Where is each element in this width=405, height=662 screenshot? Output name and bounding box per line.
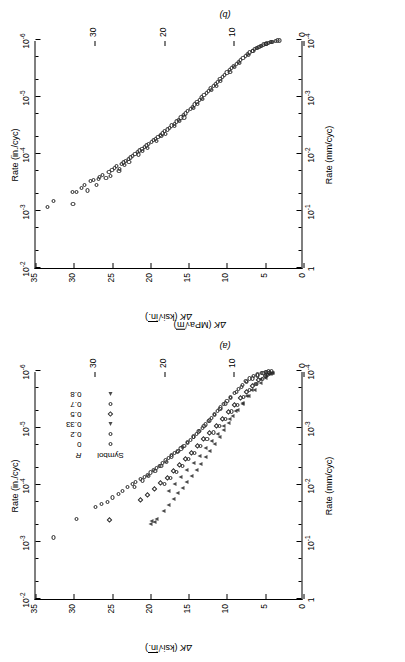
axis-tick-label: 30: [89, 28, 98, 40]
axis-tick: [298, 387, 301, 388]
data-point-circle: [177, 119, 181, 123]
axis-tick: [296, 598, 301, 599]
data-point-circle: [241, 395, 245, 399]
panel-a-x-top-title: Rate (in./cyc): [10, 459, 19, 512]
axis-tick: [298, 56, 301, 57]
axis-tick: [150, 594, 151, 599]
data-point-circle: [51, 199, 55, 203]
axis-tick: [35, 170, 38, 171]
data-point-triangle: [180, 486, 184, 490]
data-point-circle: [228, 396, 232, 400]
data-point-triangle: [246, 394, 250, 398]
data-point-triangle: [194, 468, 198, 472]
data-point-circle: [70, 202, 74, 206]
data-point-circle: [198, 444, 202, 448]
data-point-triangle: [215, 432, 219, 436]
data-point-triangle: [227, 417, 231, 421]
data-point-triangle: [221, 428, 225, 432]
axis-tick-label: 5: [259, 270, 268, 278]
data-point-triangle: [258, 381, 262, 385]
data-point-circle: [120, 489, 124, 493]
axis-tick-label: 10: [228, 28, 237, 40]
axis-tick-label: 1: [303, 598, 315, 603]
data-point-circle: [94, 183, 98, 187]
axis-tick: [35, 541, 40, 542]
panel-a-x-bottom-title: Rate (mm/cyc): [324, 457, 333, 516]
data-point-circle: [70, 190, 74, 194]
data-point-circle: [175, 450, 179, 454]
axis-tick-label: 30: [89, 359, 98, 371]
axis-tick-label: 10-2: [22, 592, 34, 607]
data-point-circle: [126, 160, 130, 164]
data-point-circle: [82, 183, 86, 187]
panel-a-letter: (a): [219, 341, 230, 351]
axis-tick-label: 10-2: [22, 261, 34, 276]
axis-tick: [298, 136, 301, 137]
axis-tick: [35, 193, 38, 194]
axis-tick: [35, 427, 40, 428]
data-point-circle: [51, 535, 55, 539]
data-point-triangle: [198, 462, 202, 466]
axis-tick: [188, 594, 189, 599]
legend-row: 0: [61, 439, 125, 449]
data-point-circle: [212, 413, 216, 417]
axis-tick-label: 10-2: [303, 147, 315, 162]
legend-row: 0.7: [61, 399, 125, 409]
axis-tick: [35, 467, 38, 468]
data-point-circle: [217, 424, 221, 428]
data-point-triangle: [161, 509, 165, 513]
legend-marker-diamond: [107, 411, 113, 417]
axis-tick: [35, 96, 40, 97]
data-point-circle: [140, 478, 144, 482]
axis-tick: [94, 41, 95, 46]
axis-tick: [298, 558, 301, 559]
data-point-diamond: [137, 497, 143, 503]
axis-tick-label: 20: [145, 601, 154, 613]
axis-tick-label: 1: [303, 267, 315, 272]
data-point-circle: [116, 492, 120, 496]
panel-b-plot-frame: [34, 41, 302, 269]
axis-tick: [226, 594, 227, 599]
data-point-circle: [152, 469, 156, 473]
legend-row: 0.2: [61, 429, 125, 439]
legend-marker-triangle: [108, 422, 112, 426]
data-point-circle: [181, 115, 185, 119]
panel-a-legend: Symbol R 00.20.330.50.70.8: [61, 389, 125, 459]
axis-tick-label: 20: [145, 270, 154, 282]
data-point-triangle: [166, 489, 170, 493]
data-point-circle: [91, 178, 95, 182]
data-point-circle: [237, 61, 241, 65]
data-point-circle: [132, 485, 136, 489]
data-point-circle: [244, 380, 248, 384]
data-point-circle: [277, 38, 281, 42]
data-point-circle: [145, 146, 149, 150]
axis-tick-label: 10: [221, 601, 230, 613]
data-point-triangle: [189, 474, 193, 478]
axis-tick-label: 5: [259, 601, 268, 609]
axis-tick-label: 10-3: [303, 421, 315, 436]
data-point-triangle: [175, 491, 179, 495]
axis-tick: [296, 541, 301, 542]
data-point-circle: [235, 403, 239, 407]
panel-b-letter: (b): [219, 10, 230, 20]
data-point-circle: [218, 79, 222, 83]
data-point-triangle: [240, 402, 244, 406]
axis-tick: [298, 170, 301, 171]
axis-tick: [35, 210, 40, 211]
data-point-triangle: [268, 372, 272, 376]
data-point-triangle: [252, 388, 256, 392]
legend-r-value: 0.2: [61, 430, 81, 438]
data-point-triangle: [166, 503, 170, 507]
axis-tick-label: 10-3: [22, 535, 34, 550]
legend-r-value: 0.5: [61, 410, 81, 418]
data-point-circle: [105, 500, 109, 504]
data-point-circle: [250, 376, 254, 380]
data-point-circle: [174, 470, 178, 474]
legend-marker-circle: [108, 432, 112, 436]
data-point-circle: [250, 49, 254, 53]
panel-a: Rate (mm/cyc) Rate (in./cyc) ΔK (ksi√in.…: [0, 331, 405, 662]
axis-tick-label: 10-6: [22, 364, 34, 379]
axis-tick: [265, 594, 266, 599]
data-point-circle: [229, 409, 233, 413]
axis-tick: [298, 467, 301, 468]
